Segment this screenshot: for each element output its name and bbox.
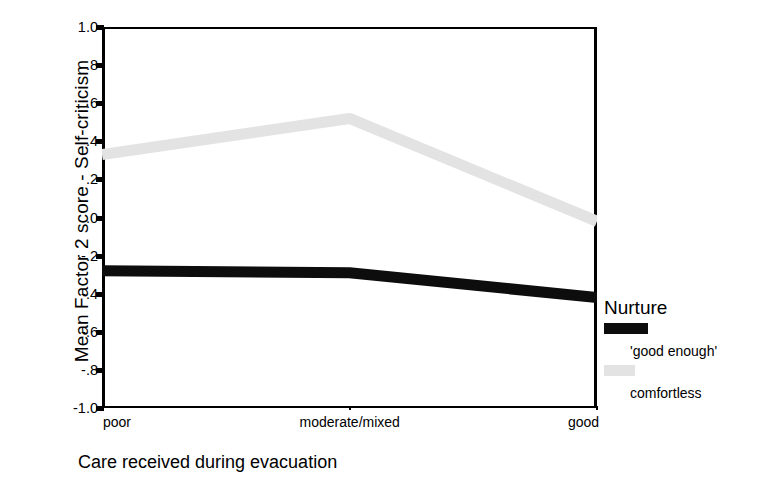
y-tick-label: -.6 bbox=[52, 325, 98, 340]
series-line-good-enough bbox=[102, 271, 597, 298]
y-tick-label: .2 bbox=[52, 172, 98, 187]
x-axis-title: Care received during evacuation bbox=[78, 452, 337, 473]
legend-item-comfortless: comfortless bbox=[602, 365, 752, 407]
legend-label-good-enough: 'good enough' bbox=[630, 343, 717, 359]
y-tick-label: -.2 bbox=[52, 249, 98, 264]
x-tick-label: moderate/mixed bbox=[300, 414, 400, 430]
x-tick-mark bbox=[596, 406, 598, 410]
y-tick-label: -.4 bbox=[52, 287, 98, 302]
y-tick-label: .8 bbox=[52, 58, 98, 73]
legend-item-good-enough: 'good enough' bbox=[602, 323, 752, 365]
y-tick-label: 1.0 bbox=[52, 20, 98, 35]
y-tick-label: .6 bbox=[52, 96, 98, 111]
y-tick-label: .0 bbox=[52, 211, 98, 226]
x-tick-mark bbox=[349, 406, 351, 410]
y-axis-tick-labels: 1.0.8.6.4.2.0-.2-.4-.6-.8-1.0 bbox=[44, 0, 98, 492]
plot-area bbox=[102, 27, 597, 408]
x-tick-label: poor bbox=[103, 414, 131, 430]
x-tick-label: good bbox=[568, 414, 599, 430]
y-tick-label: -1.0 bbox=[52, 401, 98, 416]
legend-swatch-comfortless bbox=[604, 365, 635, 376]
legend-swatch-good-enough bbox=[604, 323, 648, 334]
y-tick-label: .4 bbox=[52, 134, 98, 149]
legend-title: Nurture bbox=[604, 298, 752, 317]
legend: Nurture 'good enough' comfortless bbox=[602, 298, 752, 407]
chart-page: Mean Factor 2 score - Self-criticism 1.0… bbox=[0, 0, 758, 492]
y-tick-label: -.8 bbox=[52, 363, 98, 378]
x-tick-mark bbox=[101, 406, 103, 410]
series-line-comfortless bbox=[102, 118, 597, 221]
legend-label-comfortless: comfortless bbox=[630, 385, 702, 401]
